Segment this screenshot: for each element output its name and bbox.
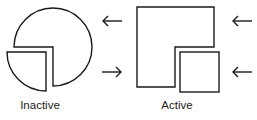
active-large-piece — [137, 7, 214, 87]
inactive-label: Inactive — [0, 99, 80, 111]
arrow-left-icon — [233, 67, 252, 77]
inactive-panel — [7, 8, 122, 91]
active-small-piece — [180, 52, 219, 92]
active-label: Active — [137, 99, 217, 111]
arrow-left-icon — [233, 16, 252, 26]
inactive-large-piece — [14, 8, 92, 86]
arrow-right-icon — [102, 67, 121, 77]
active-panel — [137, 7, 252, 92]
inactive-small-piece — [7, 52, 46, 91]
arrow-left-icon — [103, 16, 122, 26]
